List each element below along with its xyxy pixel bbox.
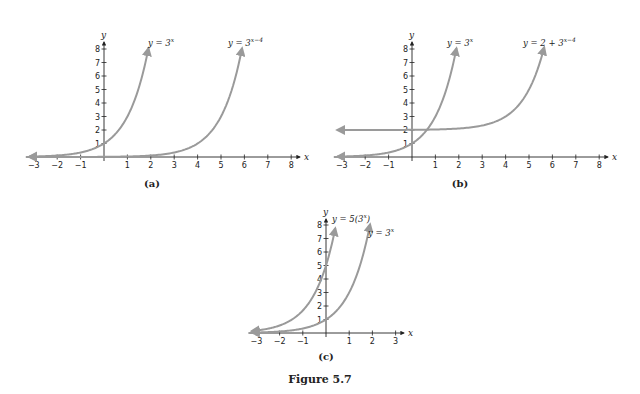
curve-3x — [252, 224, 370, 332]
y-tick-label: 7 — [95, 59, 100, 68]
y-tick-label: 3 — [403, 113, 408, 122]
x-tick-label: −2 — [274, 337, 286, 346]
graph-panel-b: xy−3−2−11234567812345678y = 3xy = 2 + 3x… — [334, 30, 617, 189]
equation-label: y = 3x−4 — [227, 36, 263, 48]
y-tick-label: 4 — [403, 99, 408, 108]
y-tick-label: 5 — [95, 86, 100, 95]
y-tick-label: 5 — [403, 86, 408, 95]
x-tick-label: 7 — [265, 161, 270, 170]
graph-panel-a: xy−3−2−11234567812345678y = 3xy = 3x−4(a… — [26, 30, 309, 189]
equation-label: y = 5(3x) — [331, 212, 370, 224]
graph-panel-c: xy−3−2−112312345678y = 5(3x)y = 3x(c) — [248, 207, 413, 362]
y-tick-label: 2 — [95, 126, 100, 135]
y-tick-label: 8 — [403, 45, 408, 54]
equation-label: y = 3x — [367, 226, 395, 238]
y-axis-label: y — [100, 30, 107, 40]
x-tick-label: −3 — [28, 161, 40, 170]
y-tick-label: 7 — [403, 59, 408, 68]
equation-label: y = 3x — [147, 36, 175, 48]
x-tick-label: 8 — [289, 161, 294, 170]
x-tick-label: −1 — [383, 161, 395, 170]
equation-label: y = 3x — [446, 36, 474, 48]
x-tick-label: 2 — [148, 161, 153, 170]
y-tick-label: 3 — [317, 289, 322, 298]
x-tick-label: 1 — [125, 161, 130, 170]
y-tick-label: 8 — [317, 221, 322, 230]
x-tick-label: 2 — [370, 337, 375, 346]
y-tick-label: 4 — [95, 99, 100, 108]
x-tick-label: 7 — [573, 161, 578, 170]
x-tick-label: −1 — [75, 161, 87, 170]
equation-label: y = 2 + 3x−4 — [522, 36, 576, 48]
figure-canvas: xy−3−2−11234567812345678y = 3xy = 3x−4(a… — [0, 0, 640, 394]
panel-label: (c) — [318, 351, 334, 362]
x-tick-label: 1 — [347, 337, 352, 346]
x-tick-label: −3 — [336, 161, 348, 170]
x-tick-label: 5 — [218, 161, 223, 170]
curve-3x — [337, 48, 456, 156]
x-tick-label: 3 — [480, 161, 485, 170]
y-tick-label: 7 — [317, 235, 322, 244]
x-tick-label: 6 — [550, 161, 555, 170]
curve-53x — [252, 228, 336, 331]
x-axis-label: x — [612, 152, 617, 162]
x-tick-label: −2 — [359, 161, 371, 170]
x-tick-label: −2 — [51, 161, 63, 170]
y-tick-label: 8 — [95, 45, 100, 54]
x-axis-label: x — [408, 328, 413, 338]
y-tick-label: 6 — [95, 72, 100, 81]
curve-3x4 — [29, 48, 242, 157]
panel-label: (b) — [452, 178, 468, 189]
y-tick-label: 5 — [317, 262, 322, 271]
curve-23x4 — [337, 47, 544, 130]
y-tick-label: 6 — [317, 248, 322, 257]
y-tick-label: 3 — [95, 113, 100, 122]
x-tick-label: 2 — [456, 161, 461, 170]
x-tick-label: −3 — [251, 337, 263, 346]
y-tick-label: 6 — [403, 72, 408, 81]
x-tick-label: 5 — [526, 161, 531, 170]
y-axis-label: y — [408, 30, 415, 40]
x-axis-label: x — [304, 152, 309, 162]
panel-label: (a) — [144, 178, 160, 189]
x-tick-label: 1 — [433, 161, 438, 170]
y-axis-label: y — [322, 207, 329, 217]
figure-caption: Figure 5.7 — [0, 373, 640, 386]
y-tick-label: 2 — [317, 302, 322, 311]
x-tick-label: 4 — [503, 161, 508, 170]
curve-3x — [29, 48, 148, 156]
x-tick-label: 4 — [195, 161, 200, 170]
x-tick-label: 8 — [597, 161, 602, 170]
x-tick-label: 6 — [242, 161, 247, 170]
x-tick-label: 3 — [393, 337, 398, 346]
x-tick-label: −1 — [297, 337, 309, 346]
x-tick-label: 3 — [172, 161, 177, 170]
